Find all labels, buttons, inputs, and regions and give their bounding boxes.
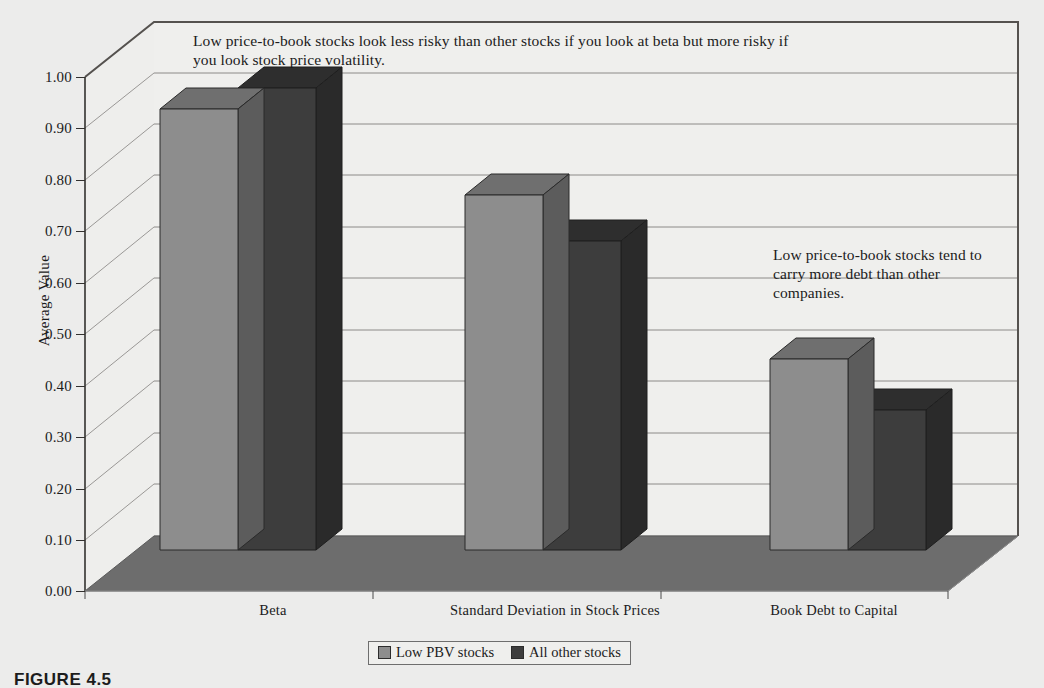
y-tick-label: 0.30	[14, 430, 72, 445]
y-tick-label: 0.90	[14, 121, 72, 136]
y-tick-mark	[76, 334, 85, 335]
y-tick-label: 0.00	[14, 584, 72, 599]
y-tick-mark	[76, 283, 85, 284]
y-tick-label: 0.10	[14, 533, 72, 548]
chart-svg	[0, 0, 1044, 688]
y-tick-mark	[76, 180, 85, 181]
y-tick-mark	[76, 591, 85, 592]
y-tick-mark	[76, 437, 85, 438]
y-tick-label: 0.80	[14, 173, 72, 188]
x-axis-ticks	[85, 591, 948, 599]
legend-swatch-icon	[511, 646, 524, 659]
figure-container: 1.00 0.90 0.80 0.70 0.60 0.50 0.40 0.30 …	[0, 0, 1044, 688]
legend-item-all-other[interactable]: All other stocks	[511, 645, 621, 660]
y-tick-label: 0.20	[14, 482, 72, 497]
figure-caption: FIGURE 4.5	[14, 670, 112, 688]
x-category-label-book-debt: Book Debt to Capital	[714, 602, 954, 619]
bar-stddev-low-pbv	[465, 174, 569, 550]
y-tick-mark	[76, 386, 85, 387]
chart-scene	[0, 0, 1044, 688]
y-tick-mark	[76, 77, 85, 78]
x-category-label-beta: Beta	[169, 602, 377, 619]
y-axis-title: Average Value	[36, 221, 53, 381]
y-tick-mark	[76, 128, 85, 129]
y-tick-mark	[76, 489, 85, 490]
legend-label: Low PBV stocks	[396, 645, 494, 660]
legend-item-low-pbv[interactable]: Low PBV stocks	[378, 645, 494, 660]
bar-beta-low-pbv	[160, 88, 264, 550]
bar-book-debt-low-pbv	[770, 338, 874, 550]
y-tick-label: 1.00	[14, 70, 72, 85]
legend-label: All other stocks	[529, 645, 621, 660]
annotation-beta-volatility: Low price-to-book stocks look less risky…	[193, 32, 799, 70]
annotation-book-debt: Low price-to-book stocks tend to carry m…	[773, 246, 988, 303]
x-category-label-stddev: Standard Deviation in Stock Prices	[405, 602, 705, 619]
y-tick-mark	[76, 231, 85, 232]
y-tick-label: 0.40	[14, 379, 72, 394]
y-tick-mark	[76, 540, 85, 541]
legend-swatch-icon	[378, 646, 391, 659]
chart-legend: Low PBV stocks All other stocks	[368, 641, 631, 665]
